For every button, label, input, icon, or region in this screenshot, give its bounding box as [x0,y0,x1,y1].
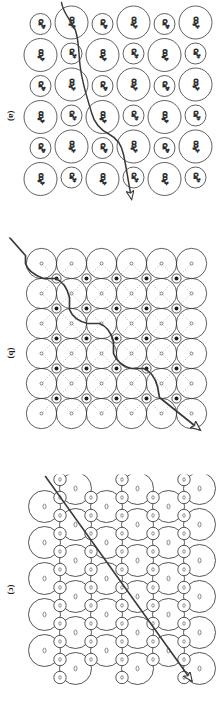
panel-c: (c) [0,474,221,711]
panel-c-lattice [0,474,221,711]
panel-b-label: (b) [6,347,16,358]
panel-a-lattice: CO32-Ca2+CO32-Ca2+CO32-Ca2+Ca2+CO32-Ca2+… [0,0,221,237]
panel-c-label: (c) [6,584,16,594]
panel-b: (b) [0,237,221,474]
figure-plate: CO32-Ca2+CO32-Ca2+CO32-Ca2+Ca2+CO32-Ca2+… [0,0,221,711]
figure-root: CO32-Ca2+CO32-Ca2+CO32-Ca2+Ca2+CO32-Ca2+… [0,0,221,711]
panel-a: CO32-Ca2+CO32-Ca2+CO32-Ca2+Ca2+CO32-Ca2+… [0,0,221,237]
panel-a-label: (a) [6,110,16,121]
panel-b-lattice [0,237,221,474]
